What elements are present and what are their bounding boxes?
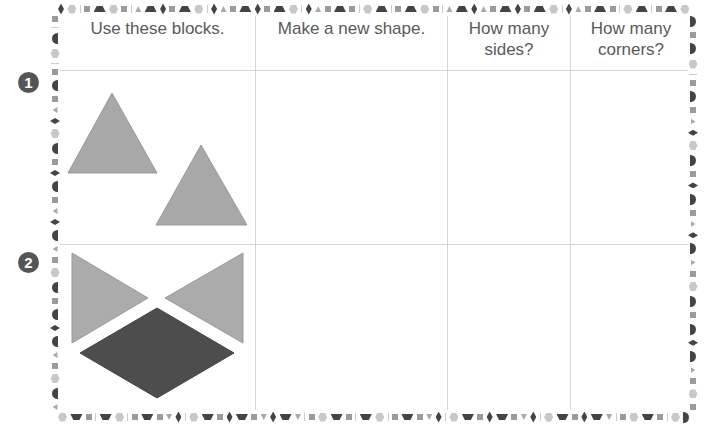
triangle-block: [68, 93, 157, 173]
worksheet-page: Use these blocks. Make a new shape. How …: [0, 0, 711, 438]
pattern-blocks: [0, 0, 711, 438]
triangle-block: [156, 145, 247, 225]
